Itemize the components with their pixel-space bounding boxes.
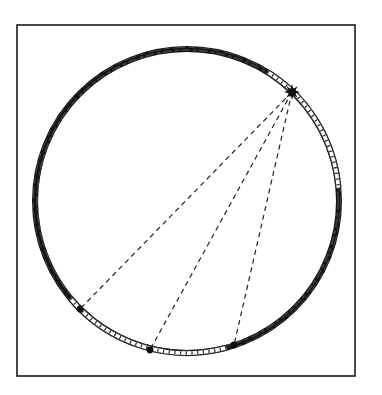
ring-light-segment-outline bbox=[71, 299, 227, 353]
dot-1-marker bbox=[77, 306, 84, 313]
dashed-ray bbox=[234, 92, 292, 345]
ring-light-segment bbox=[268, 72, 339, 188]
dashed-rays bbox=[80, 92, 292, 350]
dashed-ray bbox=[80, 92, 292, 309]
ring-light-segment bbox=[71, 299, 227, 353]
star-icon bbox=[284, 84, 300, 100]
diagram-canvas bbox=[0, 0, 382, 395]
dot-3-marker bbox=[231, 342, 238, 349]
frame-border bbox=[17, 25, 355, 376]
ring-hatch bbox=[71, 299, 227, 353]
dashed-ray bbox=[150, 92, 292, 350]
ring-light-segment-outline bbox=[268, 72, 339, 188]
ring-hatch bbox=[268, 72, 339, 188]
dot-2-marker bbox=[147, 347, 154, 354]
